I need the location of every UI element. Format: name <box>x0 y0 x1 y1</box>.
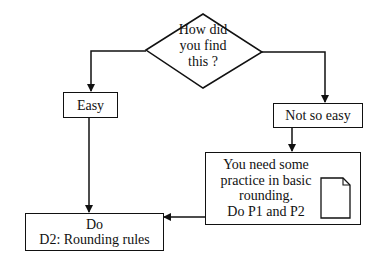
not-so-easy-box: Not so easy <box>273 103 363 128</box>
document-icon <box>320 177 352 219</box>
decision-line-1: How did <box>166 22 240 38</box>
not-so-easy-label: Not so easy <box>285 108 350 123</box>
result-line-1: Do <box>86 217 103 232</box>
result-line-2: D2: Rounding rules <box>39 232 149 247</box>
result-box: Do D2: Rounding rules <box>25 213 164 251</box>
practice-line-2: practice in basic <box>212 173 320 189</box>
decision-line-3: this ? <box>166 54 240 70</box>
practice-line-1: You need some <box>212 157 320 173</box>
practice-text: You need some practice in basic rounding… <box>212 157 320 219</box>
connector-to-not-so-easy <box>262 52 325 102</box>
easy-box: Easy <box>63 92 118 118</box>
practice-line-4: Do P1 and P2 <box>212 204 320 220</box>
decision-line-2: you find <box>166 38 240 54</box>
practice-line-3: rounding. <box>212 188 320 204</box>
connector-to-easy <box>91 51 146 91</box>
decision-text: How did you find this ? <box>166 22 240 70</box>
practice-box: You need some practice in basic rounding… <box>205 152 361 225</box>
easy-label: Easy <box>77 98 104 113</box>
